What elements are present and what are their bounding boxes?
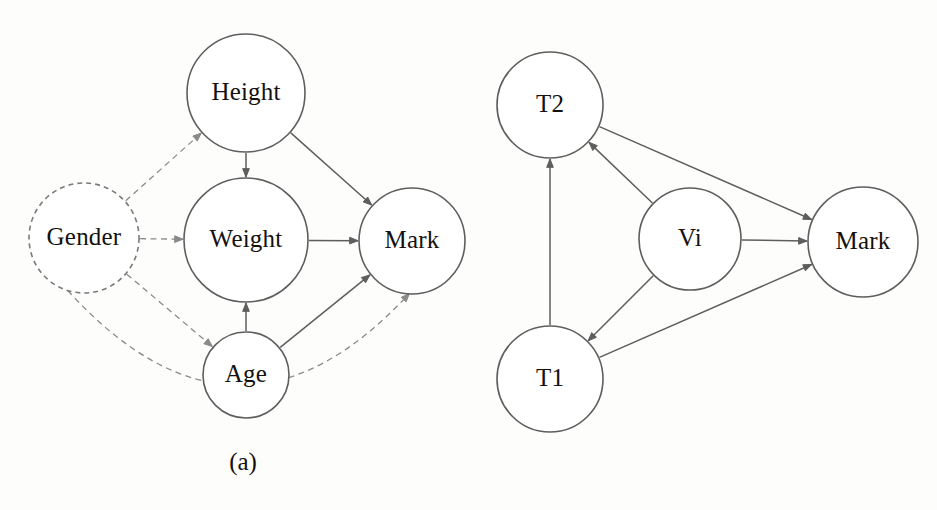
node-t1-label: T1 — [536, 364, 564, 391]
node-t1[interactable]: T1 — [497, 326, 603, 432]
panel-a-caption: (a) — [183, 448, 303, 476]
edge-vi-to-t2 — [589, 142, 652, 203]
edge-gender-to-age — [127, 274, 213, 346]
node-mark-label: Mark — [385, 226, 440, 253]
node-age[interactable]: Age — [203, 332, 289, 418]
node-age-label: Age — [225, 360, 267, 387]
node-mark-label: Mark — [836, 227, 891, 254]
node-height[interactable]: Height — [187, 34, 305, 152]
edge-arrowhead — [204, 339, 213, 347]
node-t2-label: T2 — [536, 90, 564, 117]
edge-arrowhead — [243, 169, 250, 177]
panel-a-graph: HeightGenderWeightMarkAge — [0, 0, 470, 510]
node-vi[interactable]: Vi — [639, 188, 741, 290]
edge-height-to-mark — [291, 133, 372, 205]
node-height-label: Height — [211, 78, 280, 105]
node-t2[interactable]: T2 — [497, 52, 603, 158]
edge-vi-to-mark — [742, 240, 807, 241]
edge-arrowhead — [803, 264, 812, 270]
edge-arrowhead — [193, 133, 201, 141]
edge-arrowhead — [803, 213, 812, 219]
figure-canvas: HeightGenderWeightMarkAge (a) T2T1ViMark… — [0, 0, 937, 510]
node-weight-label: Weight — [210, 225, 283, 252]
panel-b-graph: T2T1ViMark — [470, 0, 937, 510]
edge-age-to-mark — [280, 275, 370, 347]
edge-gender-to-height — [126, 133, 202, 201]
edge-arrowhead — [243, 303, 250, 311]
edge-vi-to-t1 — [588, 276, 653, 341]
node-mark[interactable]: Mark — [359, 188, 465, 294]
edge-arrowhead — [547, 159, 554, 167]
panel-b: T2T1ViMark (b) — [470, 0, 937, 510]
edge-arrowhead — [175, 236, 183, 243]
node-vi-label: Vi — [678, 224, 702, 251]
node-gender[interactable]: Gender — [29, 183, 139, 293]
node-gender-label: Gender — [47, 223, 122, 250]
panel-a: HeightGenderWeightMarkAge (a) — [0, 0, 470, 510]
node-weight[interactable]: Weight — [184, 178, 308, 302]
node-mark[interactable]: Mark — [808, 187, 918, 297]
edge-arrowhead — [799, 238, 807, 245]
edge-arrowhead — [350, 237, 358, 244]
